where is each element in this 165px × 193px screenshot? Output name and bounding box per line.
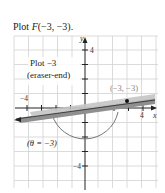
point-label: (−3, −3) xyxy=(110,83,138,93)
polar-plot: y x 4 −4 −4 4 Plot −3 (eraser-end) (−3, … xyxy=(0,0,165,193)
tick-label-x-pos: 4 xyxy=(140,111,144,120)
tick-label-x-neg: −4 xyxy=(20,94,28,103)
annotation-plot-line2: (eraser-end) xyxy=(27,70,70,80)
x-axis-label: x xyxy=(152,111,157,120)
plotted-point xyxy=(125,99,129,103)
tick-label-y-pos: 4 xyxy=(90,46,94,55)
angle-label: (θ = −3) xyxy=(27,138,57,148)
annotation-plot-line1: Plot −3 xyxy=(30,58,57,68)
tick-label-y-neg: −4 xyxy=(73,162,81,171)
y-axis-label: y xyxy=(79,34,84,43)
